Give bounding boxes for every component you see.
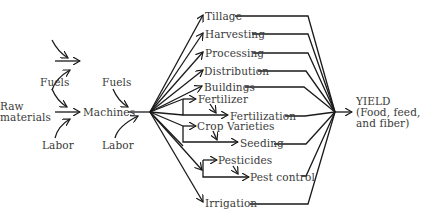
irrigation-label: Irrigation bbox=[205, 198, 257, 209]
distribution-label: Distribution bbox=[204, 66, 269, 77]
yield-line-3: and fiber) bbox=[356, 118, 420, 129]
machines-label: Machines bbox=[83, 107, 135, 118]
fuels-label-1: Fuels bbox=[40, 77, 70, 88]
labor-label-2: Labor bbox=[102, 140, 134, 151]
labor-label-1: Labor bbox=[42, 140, 74, 151]
fertilizer-label: Fertilizer bbox=[198, 94, 248, 105]
crop-varieties-label: Crop Varieties bbox=[197, 121, 274, 132]
fuels-label-2: Fuels bbox=[102, 77, 132, 88]
materials-label: materials bbox=[0, 112, 51, 123]
processing-label: Processing bbox=[205, 48, 264, 59]
harvesting-label: Harvesting bbox=[205, 29, 265, 40]
pesticides-label: Pesticides bbox=[218, 155, 272, 166]
yield-label: YIELD (Food, feed, and fiber) bbox=[356, 96, 420, 129]
tillage-label: Tillage bbox=[205, 11, 242, 22]
raw-materials-label: Raw materials bbox=[0, 101, 51, 123]
buildings-label: Buildings bbox=[204, 82, 255, 93]
seeding-label: Seeding bbox=[240, 138, 284, 149]
pest-control-label: Pest control bbox=[250, 172, 315, 183]
